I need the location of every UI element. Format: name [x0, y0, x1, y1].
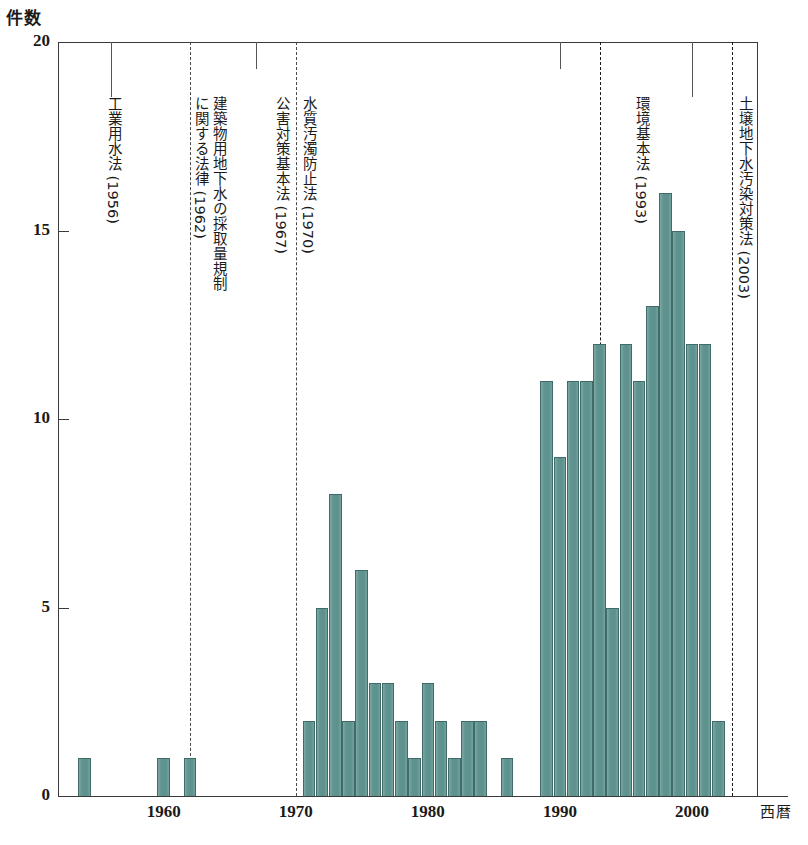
event-label-basic-environment-law: 環境基本法 (1993)	[632, 96, 650, 224]
y-tick-mark-10	[58, 419, 69, 420]
bar-1971	[303, 721, 316, 796]
bar-1972	[316, 608, 329, 797]
bar-2000	[686, 344, 699, 796]
bar-1977	[382, 683, 395, 796]
top-tick-mark-1967	[256, 42, 257, 69]
bar-2002	[712, 721, 725, 796]
x-tick-1980: 1980	[398, 802, 458, 822]
y-tick-0: 0	[10, 785, 50, 805]
y-axis-title: 件数	[6, 4, 42, 29]
event-label-line: 環境基本法 (1993)	[632, 96, 650, 224]
bar-1973	[329, 494, 342, 796]
bar-1980	[422, 683, 435, 796]
figure-chart-groundwater-cases: 件数 西暦 05101520 19601970198019902000 工業用水…	[0, 0, 808, 845]
event-line-soil-groundwater-contamination-law	[732, 42, 733, 796]
top-tick-mark-1990	[560, 42, 561, 69]
bar-1975	[355, 570, 368, 796]
top-tick-mark-2000	[692, 42, 693, 97]
bar-1979	[408, 758, 421, 796]
event-label-line: 水質汚濁防止法 (1970)	[299, 96, 317, 254]
bar-1990	[554, 457, 567, 796]
event-line-water-pollution-control-law	[296, 42, 297, 796]
bar-1998	[659, 193, 672, 796]
x-tick-1960: 1960	[134, 802, 194, 822]
bar-1992	[580, 381, 593, 796]
y-tick-mark-5	[58, 608, 69, 609]
bar-1991	[567, 381, 580, 796]
event-label-line: に関する法律 (1962)	[191, 96, 209, 291]
event-label-line: 土壌地下水汚染対策法 (2003)	[735, 96, 753, 299]
event-label-pollution-countermeasures-basic-law: 公害対策基本法 (1967)	[272, 96, 290, 254]
bar-1978	[395, 721, 408, 796]
x-axis-title: 西暦	[760, 800, 792, 821]
event-label-line: 公害対策基本法 (1967)	[272, 96, 290, 254]
bar-1954	[78, 758, 91, 796]
y-tick-15: 15	[10, 220, 50, 240]
bar-1989	[540, 381, 553, 796]
bar-1986	[501, 758, 514, 796]
event-label-water-pollution-control-law: 水質汚濁防止法 (1970)	[299, 96, 317, 254]
y-tick-20: 20	[10, 31, 50, 51]
event-label-building-groundwater-extraction-law: 建築物用地下水の採取量規制に関する法律 (1962)	[191, 96, 228, 291]
bar-1960	[157, 758, 170, 796]
bar-1995	[620, 344, 633, 796]
event-label-soil-groundwater-contamination-law: 土壌地下水汚染対策法 (2003)	[735, 96, 753, 299]
top-tick-mark-1956	[111, 42, 112, 97]
x-axis-baseline	[58, 796, 788, 797]
y-tick-10: 10	[10, 408, 50, 428]
bar-1982	[448, 758, 461, 796]
x-tick-1990: 1990	[530, 802, 590, 822]
bar-1981	[435, 721, 448, 796]
bar-1962	[184, 758, 197, 796]
x-tick-1970: 1970	[266, 802, 326, 822]
y-tick-5: 5	[10, 597, 50, 617]
bar-1994	[606, 608, 619, 797]
y-tick-mark-15	[58, 231, 69, 232]
bar-1983	[461, 721, 474, 796]
event-label-industrial-water-law: 工業用水法 (1956)	[104, 96, 122, 224]
bar-1984	[474, 721, 487, 796]
bar-2001	[699, 344, 712, 796]
event-label-line: 工業用水法 (1956)	[104, 96, 122, 224]
event-label-line: 建築物用地下水の採取量規制	[209, 96, 227, 291]
bar-1999	[672, 231, 685, 797]
bar-1993	[593, 344, 606, 796]
bar-1976	[369, 683, 382, 796]
bar-1974	[342, 721, 355, 796]
bar-1996	[633, 381, 646, 796]
x-tick-2000: 2000	[662, 802, 722, 822]
bar-1997	[646, 306, 659, 796]
